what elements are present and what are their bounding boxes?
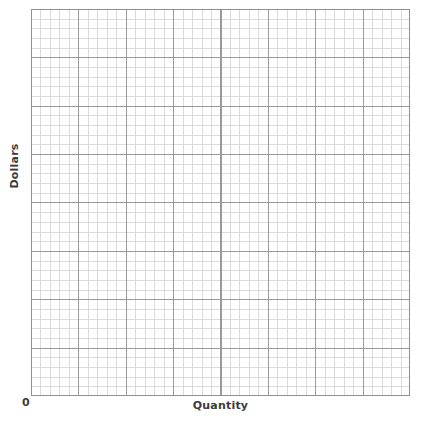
x-axis-label: Quantity: [31, 399, 410, 412]
graph-figure: Dollars Quantity 0: [0, 0, 430, 428]
graph-paper-plot-area[interactable]: [31, 9, 410, 396]
y-axis-label: Dollars: [8, 161, 21, 189]
origin-label: 0: [22, 396, 30, 409]
